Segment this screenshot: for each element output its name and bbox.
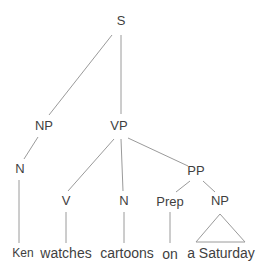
node-np-pp: NP	[211, 194, 229, 209]
node-n-subject: N	[15, 162, 24, 177]
edge-vp-pp	[128, 138, 188, 166]
syntax-tree-diagram: S NP VP N V N PP Prep NP Ken watches car…	[0, 0, 264, 274]
edge-s-np	[49, 35, 112, 115]
word-ken: Ken	[12, 247, 33, 261]
node-n-object: N	[119, 194, 128, 209]
node-v: V	[62, 194, 71, 209]
edge-vp-n	[121, 139, 123, 191]
edge-pp-np	[203, 181, 215, 192]
word-on: on	[162, 246, 178, 262]
np-triangle	[196, 214, 245, 242]
word-watches: watches	[40, 245, 91, 261]
word-cartoons: cartoons	[100, 245, 154, 261]
word-a-saturday: a Saturday	[187, 245, 255, 261]
node-prep: Prep	[156, 195, 183, 210]
node-pp: PP	[187, 164, 204, 179]
node-vp: VP	[110, 119, 127, 134]
tree-edges	[0, 0, 264, 274]
node-s: S	[117, 14, 126, 29]
edge-pp-prep	[176, 181, 190, 192]
edge-np-n	[24, 137, 38, 159]
node-np-subject: NP	[35, 119, 53, 134]
edge-vp-v	[68, 139, 114, 191]
